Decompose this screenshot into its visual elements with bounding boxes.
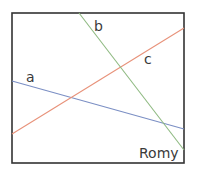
label-a: a bbox=[26, 69, 35, 85]
label-b: b bbox=[94, 18, 103, 34]
author-label: Romy bbox=[139, 145, 179, 161]
geometry-diagram: a b c Romy bbox=[0, 0, 198, 173]
label-c: c bbox=[144, 51, 152, 67]
line-c bbox=[12, 28, 184, 134]
line-a bbox=[12, 81, 184, 129]
